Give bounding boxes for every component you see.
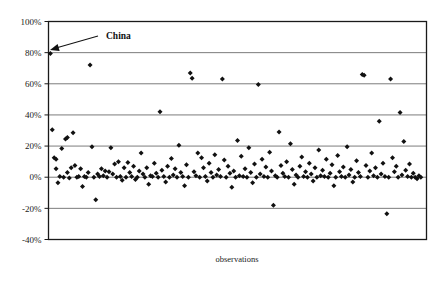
data-point (88, 63, 93, 68)
data-point (231, 168, 236, 173)
scatter-chart: 100%80%60%40%20%0%-20%-40% China observa… (0, 0, 441, 288)
data-point (190, 76, 195, 81)
data-point (203, 174, 208, 179)
data-point (252, 161, 257, 166)
data-point (186, 175, 191, 180)
data-point (258, 172, 263, 177)
data-point (229, 185, 234, 190)
y-tick-label: 60% (25, 79, 42, 89)
data-point (67, 175, 72, 180)
data-point (343, 175, 348, 180)
data-point (388, 77, 393, 82)
data-point (227, 171, 232, 176)
data-point (377, 119, 382, 124)
data-point (390, 155, 395, 160)
data-point (341, 165, 346, 170)
data-point (239, 154, 244, 159)
data-point (367, 168, 372, 173)
data-point (405, 174, 410, 179)
data-point (152, 161, 157, 166)
data-point (167, 175, 172, 180)
data-point (352, 175, 357, 180)
plot-frame (49, 22, 427, 240)
data-point (210, 175, 215, 180)
data-point (330, 162, 335, 167)
data-point (309, 172, 314, 177)
data-point (220, 77, 225, 82)
data-point (207, 161, 212, 166)
data-point (286, 175, 291, 180)
data-point (169, 156, 174, 161)
data-point (324, 157, 329, 162)
data-point (201, 165, 206, 170)
data-point (184, 162, 189, 167)
china-arrow-line (56, 36, 98, 48)
data-point (176, 143, 181, 148)
data-points (48, 51, 423, 216)
data-point (401, 139, 406, 144)
data-point (163, 179, 168, 184)
data-point (72, 163, 77, 168)
y-tick-label: -20% (22, 204, 42, 214)
data-point (171, 172, 176, 177)
data-point (199, 155, 204, 160)
data-point (50, 127, 55, 132)
data-point (212, 152, 217, 157)
data-point (61, 175, 66, 180)
data-point (91, 175, 96, 180)
data-point (175, 175, 180, 180)
data-point (320, 168, 325, 173)
data-point (399, 172, 404, 177)
data-point (78, 166, 83, 171)
data-point (55, 180, 60, 185)
data-point (261, 174, 266, 179)
data-point (209, 170, 214, 175)
data-point (226, 164, 231, 169)
data-point (65, 170, 70, 175)
data-point (122, 165, 127, 170)
data-point (384, 211, 389, 216)
data-point (382, 174, 387, 179)
data-point (222, 158, 227, 163)
china-label: China (106, 31, 131, 41)
data-point (269, 168, 274, 173)
data-point (173, 166, 178, 171)
data-point (250, 180, 255, 185)
data-point (345, 144, 350, 149)
data-point (403, 168, 408, 173)
gridlines (49, 53, 427, 209)
data-point (312, 165, 317, 170)
chart-page: 100%80%60%40%20%0%-20%-40% China observa… (0, 0, 441, 288)
data-point (137, 168, 142, 173)
y-tick-label: 100% (21, 17, 43, 27)
data-point (407, 161, 412, 166)
data-point (316, 147, 321, 152)
data-point (99, 166, 104, 171)
data-point (165, 164, 170, 169)
y-tick-label: 40% (25, 110, 42, 120)
data-point (54, 166, 59, 171)
china-arrow-head (50, 44, 60, 51)
data-point (322, 174, 327, 179)
data-point (195, 151, 200, 156)
data-point (243, 166, 248, 171)
data-point (110, 172, 115, 177)
data-point (350, 179, 355, 184)
data-point (114, 175, 119, 180)
data-point (205, 179, 210, 184)
data-point (244, 175, 249, 180)
data-point (386, 175, 391, 180)
data-point (80, 184, 85, 189)
data-point (182, 183, 187, 188)
data-point (112, 161, 117, 166)
data-point (301, 174, 306, 179)
data-point (146, 182, 151, 187)
y-tick-label: 0% (30, 172, 43, 182)
data-point (216, 167, 221, 172)
data-point (89, 144, 94, 149)
data-point (394, 164, 399, 169)
y-tick-label: -40% (22, 235, 42, 245)
data-point (373, 165, 378, 170)
data-point (284, 159, 289, 164)
data-point (311, 179, 316, 184)
